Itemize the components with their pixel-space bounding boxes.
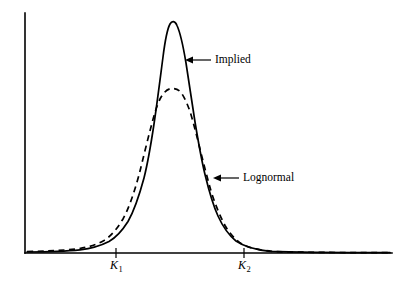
distribution-figure: Implied Lognormal K1 K2 [0,0,394,284]
lognormal-arrow-icon [213,175,221,182]
k1-subscript: 1 [119,264,123,274]
x-tick-label-k1: K1 [110,259,122,271]
k2-subscript: 2 [247,264,251,274]
plot-canvas [0,0,394,284]
implied-label: Implied [215,54,251,66]
k1-base: K [110,258,118,272]
lognormal-label: Lognormal [243,172,294,184]
implied-curve [27,22,390,253]
lognormal-curve [27,88,390,252]
x-tick-label-k2: K2 [238,259,250,271]
k2-base: K [238,258,246,272]
